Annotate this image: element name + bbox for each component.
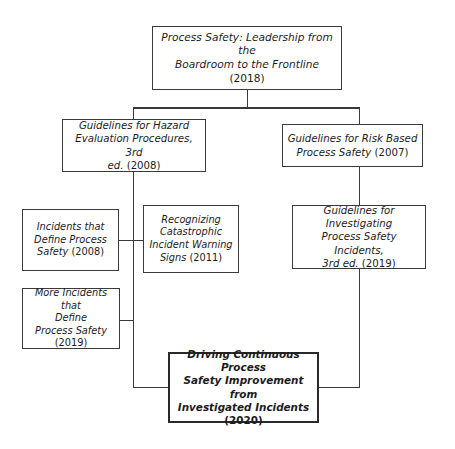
connector-to-risk-based (359, 107, 361, 125)
connector-root-stem (247, 90, 249, 108)
node-label: Recognizing Catastrophic Incident Warnin… (146, 214, 235, 264)
node-more-incidents-that-define-process-safety[interactable]: More Incidents that Define Process Safet… (22, 288, 120, 349)
node-label: Guidelines for Hazard Evaluation Procedu… (63, 119, 205, 171)
node-label: Driving Continuous Process Safety Improv… (170, 348, 317, 428)
connector-row2-horizontal-bar (133, 107, 360, 109)
node-driving-continuous-process-safety-improvement[interactable]: Driving Continuous Process Safety Improv… (168, 352, 319, 423)
connector-investigating-drop (359, 268, 361, 387)
connector-right-spine (359, 166, 361, 206)
node-guidelines-investigating-process-safety-incidents[interactable]: Guidelines for Investigating Process Saf… (292, 205, 426, 269)
node-label: Process Safety: Leadership from the Boar… (153, 31, 341, 85)
connector-left-spine (133, 171, 135, 388)
node-guidelines-risk-based-process-safety[interactable]: Guidelines for Risk Based Process Safety… (282, 124, 423, 167)
node-label: More Incidents that Define Process Safet… (23, 287, 119, 350)
node-process-safety-leadership[interactable]: Process Safety: Leadership from the Boar… (152, 26, 342, 90)
flowchart-diagram: Process Safety: Leadership from the Boar… (0, 0, 455, 449)
node-recognizing-catastrophic-incident-warning-signs[interactable]: Recognizing Catastrophic Incident Warnin… (143, 205, 239, 273)
connector-bottom-left-into-driving (133, 387, 170, 389)
connector-branch-incidents-recognizing (117, 240, 144, 242)
connector-bottom-right-into-driving (318, 387, 360, 389)
node-incidents-that-define-process-safety[interactable]: Incidents that Define Process Safety (20… (22, 209, 119, 271)
node-label: Guidelines for Investigating Process Saf… (293, 204, 425, 269)
node-guidelines-hazard-evaluation[interactable]: Guidelines for Hazard Evaluation Procedu… (62, 119, 206, 172)
node-label: Guidelines for Risk Based Process Safety… (285, 132, 421, 158)
node-label: Incidents that Define Process Safety (20… (31, 221, 110, 259)
